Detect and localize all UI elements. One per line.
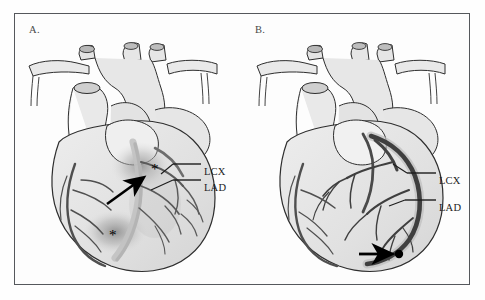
figure-frame: A. bbox=[14, 13, 470, 285]
panel-a-illustration: * * bbox=[15, 14, 243, 286]
label-lcx-panel-b: LCX bbox=[439, 175, 461, 186]
panel-b: B. bbox=[243, 14, 471, 286]
left-arch-branch bbox=[257, 61, 317, 76]
label-lad-panel-a: LAD bbox=[204, 182, 226, 193]
right-arch-branch bbox=[395, 60, 445, 74]
stent-site-marker bbox=[395, 250, 403, 258]
left-arch-branch bbox=[29, 61, 89, 76]
svc-cut-end bbox=[302, 83, 328, 94]
figure-container: A. bbox=[0, 0, 485, 300]
label-lad-panel-b: LAD bbox=[439, 202, 461, 213]
svc-cut-end bbox=[74, 83, 100, 94]
asterisk-lower-marker: * bbox=[109, 227, 117, 243]
panel-b-illustration bbox=[243, 14, 471, 286]
right-arch-branch bbox=[167, 60, 217, 74]
label-lcx-panel-a: LCX bbox=[204, 166, 226, 177]
panel-a: A. bbox=[15, 14, 243, 286]
asterisk-upper-marker: * bbox=[151, 161, 159, 177]
